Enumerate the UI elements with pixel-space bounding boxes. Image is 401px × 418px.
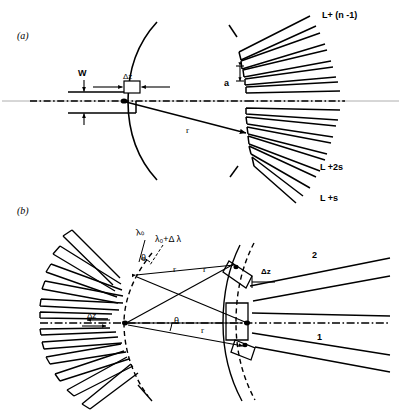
panel-b-lambda0-delta-label: λ₀+Δ λ (155, 235, 181, 244)
panel-b-r-lower-label: r (201, 326, 204, 335)
panel-b-lambda0-label: λ₀ (135, 227, 145, 238)
panel-a-delta-z-box (124, 81, 140, 93)
figure-canvas (0, 0, 401, 418)
panel-a-group (2, 16, 399, 203)
panel-b-left-slat-u2 (40, 299, 123, 310)
panel-b-theta-axis-label: θ (174, 317, 179, 326)
panel-b-lambda0-dl-leader (150, 245, 163, 265)
panel-b-left-slat-u1 (40, 312, 112, 319)
panel-b-theta-upper-label: θ (141, 254, 146, 263)
panel-b-r-upper-left-label: r (173, 265, 176, 274)
panel-b-ray-r-c (137, 277, 245, 322)
panel-a-slat-spacing-label: a (224, 79, 229, 88)
panel-a-radius-label: r (186, 126, 189, 135)
panel-b-right-fan (250, 258, 390, 372)
panel-b-theta-axis-arc (170, 323, 172, 331)
panel-b-lower-detector-box (231, 340, 255, 360)
panel-b-label: (b) (17, 206, 29, 216)
panel-b-right-beam-2 (250, 258, 390, 301)
panel-a-slat-hook-bottom (230, 166, 238, 177)
panel-b-delta-z-right-label: Δz (261, 268, 271, 276)
panel-a-slat-l5 (249, 146, 316, 188)
panel-b-beam-1-label: 1 (317, 333, 322, 342)
panel-b-r-upper-right-label: r (203, 265, 206, 274)
panel-a-source-point (121, 98, 128, 103)
panel-b-upper-focus-point (233, 265, 238, 269)
panel-b-right-beam-mid (252, 313, 390, 316)
panel-b-ray-r-b (128, 264, 234, 322)
panel-a-width-label: W (78, 69, 87, 78)
panel-a-arm-s-label: L +s (320, 194, 338, 203)
panel-a-top-arm-label: L+ (n -1) (322, 11, 357, 20)
panel-a-slat-u4 (241, 33, 325, 69)
panel-a-slat-hook-top (229, 25, 237, 37)
panel-a-slat-l4 (248, 136, 325, 171)
panel-b-left-slat-l1 (40, 328, 116, 335)
panel-b-left-arc-tail (138, 385, 152, 401)
panel-b-left-apex-point (122, 321, 128, 326)
panel-b-beam-2-label: 2 (312, 251, 317, 260)
panel-a-slat-l2 (246, 117, 336, 137)
panel-b-lower-focus-point (242, 343, 247, 347)
panel-b-left-slat-l2 (42, 337, 122, 349)
panel-a-collimator-fan (229, 16, 340, 203)
panel-a-delta-z-label: Δz (123, 73, 132, 81)
figure-root: (a) W Δz a r L+ (n -1) L +2s L +s (b) λ₀… (0, 0, 401, 418)
panel-b-delta-z-left-label: Δz (87, 312, 96, 320)
panel-a-label: (a) (17, 31, 29, 41)
panel-b-ray-r-a (136, 265, 234, 275)
panel-a-arm-2s-label: L +2s (320, 163, 343, 172)
